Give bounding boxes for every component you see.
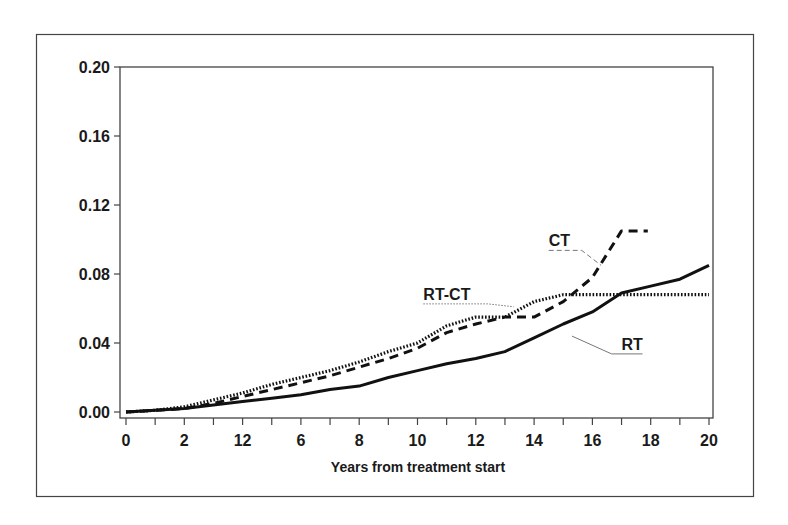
x-tick-label: 8 — [355, 432, 364, 449]
y-tick-label: 0.04 — [79, 335, 110, 352]
plot-area — [120, 67, 713, 418]
series-label-rt-ct: RT-CT — [423, 286, 470, 303]
leader-line-ct — [549, 250, 601, 265]
y-tick-label: 0.12 — [79, 197, 110, 214]
x-tick-label: 14 — [525, 432, 543, 449]
series-label-rt: RT — [622, 336, 644, 353]
x-tick-label: 18 — [642, 432, 660, 449]
series-line-rt-ct — [126, 295, 709, 412]
y-axis: 0.000.040.080.120.160.20 — [79, 59, 120, 421]
x-tick-label: 10 — [409, 432, 427, 449]
leader-line-rt-ct — [423, 304, 513, 307]
x-tick-label: 6 — [296, 432, 305, 449]
x-axis: 021268101214161820 — [122, 418, 718, 449]
x-tick-label: 2 — [180, 432, 189, 449]
outer-frame — [37, 35, 754, 497]
x-tick-label: 0 — [122, 432, 131, 449]
x-tick-label: 12 — [234, 432, 252, 449]
x-axis-title: Years from treatment start — [331, 459, 506, 475]
y-tick-label: 0.20 — [79, 59, 110, 76]
series-label-ct: CT — [549, 232, 571, 249]
x-tick-label: 16 — [584, 432, 602, 449]
y-tick-label: 0.16 — [79, 128, 110, 145]
chart-figure: 0.000.040.080.120.160.20 021268101214161… — [0, 0, 788, 525]
x-tick-label: 20 — [700, 432, 718, 449]
x-tick-label: 12 — [467, 432, 485, 449]
series-lines — [126, 231, 709, 412]
plot-border — [120, 67, 713, 418]
y-tick-label: 0.08 — [79, 266, 110, 283]
y-tick-label: 0.00 — [79, 404, 110, 421]
